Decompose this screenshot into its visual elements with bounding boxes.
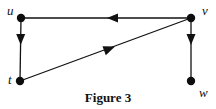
arrow-down-icon <box>16 34 25 45</box>
vertex-label-w: w <box>199 85 208 100</box>
arrow-down-icon <box>187 34 196 45</box>
vertex-label-u: u <box>7 3 14 18</box>
vertex-w <box>187 77 195 85</box>
directed-graph: u v t w Figure 3 <box>0 0 216 109</box>
vertex-u <box>17 14 25 22</box>
arrow-up-right-icon <box>103 46 116 55</box>
vertex-v <box>187 14 195 22</box>
arrow-left-icon <box>107 14 118 23</box>
figure-caption: Figure 3 <box>85 90 132 105</box>
vertex-label-v: v <box>202 3 208 18</box>
vertex-t <box>16 77 24 85</box>
vertex-label-t: t <box>8 72 12 87</box>
edge-u-t <box>20 18 21 81</box>
